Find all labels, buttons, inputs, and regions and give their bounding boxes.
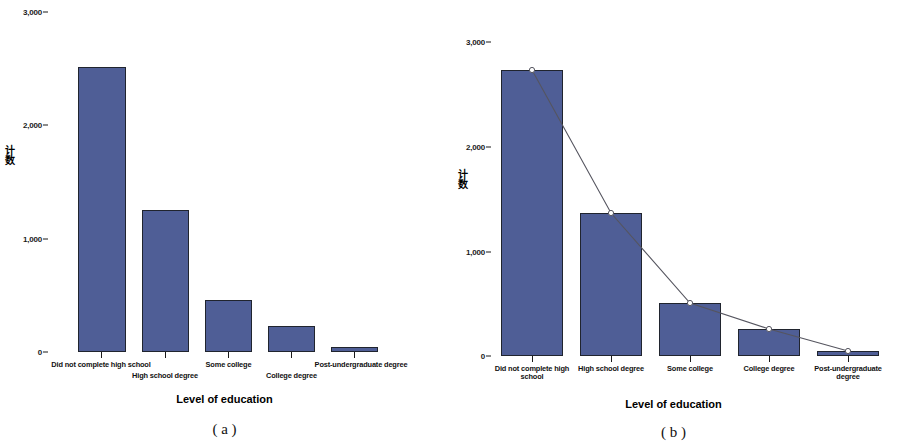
panel-caption-a: ( a )	[0, 421, 449, 438]
x-tick-2-a	[165, 352, 166, 358]
x-tick-4-b	[769, 356, 770, 362]
x-tick-2-b	[611, 356, 612, 362]
x-tick-3-a	[228, 352, 229, 358]
bar-some-college-b	[659, 303, 721, 356]
x-label-some-college-b: Some college	[647, 365, 733, 373]
x-tick-5-b	[848, 356, 849, 362]
x-tick-3-b	[690, 356, 691, 362]
x-tick-4-a	[291, 352, 292, 358]
bar-some-college-a	[205, 300, 252, 352]
x-label-did-not-complete-high-school-b: Did not complete high school	[489, 365, 575, 382]
x-label-college-degree-a: College degree	[249, 372, 334, 380]
x-label-post-undergraduate-degree-a: Post-undergraduate degree	[281, 361, 441, 369]
x-tick-1-b	[532, 356, 533, 362]
x-label-did-not-complete-high-school-a: Did not complete high school	[21, 361, 181, 369]
x-tick-5-a	[354, 352, 355, 358]
bar-high-school-degree-a	[142, 210, 189, 352]
bar-high-school-degree-b	[580, 213, 642, 356]
x-tick-1-a	[101, 352, 102, 358]
plot-area-b	[449, 0, 898, 356]
chart-panel-a: 3,000 2,000 1,000 0 计数 Did not complete …	[0, 0, 449, 447]
chart-panel-b: 3,000 2,000 1,000 0 计数 Did not complete …	[449, 0, 898, 447]
x-label-high-school-degree-a: High school degree	[110, 372, 220, 380]
x-axis-title-a: Level of education	[0, 393, 449, 405]
bar-did-not-complete-high-school-b	[501, 70, 563, 356]
bar-college-degree-b	[738, 329, 800, 356]
bar-did-not-complete-high-school-a	[78, 67, 126, 352]
x-label-some-college-a: Some college	[186, 361, 271, 369]
x-label-high-school-degree-b: High school degree	[568, 365, 654, 373]
x-label-college-degree-b: College degree	[726, 365, 812, 373]
bar-college-degree-a	[268, 326, 315, 352]
plot-area-a	[0, 0, 449, 352]
x-axis-title-b: Level of education	[449, 398, 898, 410]
panel-caption-b: ( b )	[449, 424, 898, 441]
x-label-post-undergraduate-degree-b: Post-undergraduate degree	[805, 365, 891, 382]
